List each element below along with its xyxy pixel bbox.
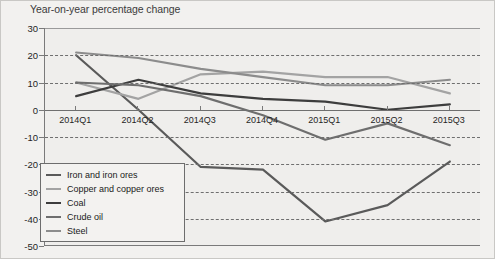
series-line-crude-oil — [76, 83, 450, 146]
chart-legend: Iron and iron oresCopper and copper ores… — [40, 163, 185, 242]
y-axis-tick-label: 10 — [2, 77, 38, 88]
y-axis-tick-label: -50 — [2, 241, 38, 252]
legend-item-label: Steel — [67, 227, 88, 236]
legend-item-label: Copper and copper ores — [67, 185, 164, 194]
gridline-20 — [45, 55, 480, 56]
gridline-30 — [45, 28, 480, 29]
chart-figure: Year-on-year percentage change 3020100-1… — [0, 0, 495, 259]
y-axis-tick-label: -40 — [2, 213, 38, 224]
legend-swatch-icon — [46, 216, 61, 218]
y-axis-tick-mark — [39, 246, 44, 247]
legend-swatch-icon — [46, 202, 61, 204]
legend-item-label: Coal — [67, 199, 86, 208]
legend-item-label: Crude oil — [67, 213, 103, 222]
legend-item: Crude oil — [46, 210, 179, 224]
gridline-neg10 — [45, 137, 480, 138]
legend-item: Steel — [46, 224, 179, 238]
y-axis-tick-label: -10 — [2, 132, 38, 143]
y-axis-tick-label: 20 — [2, 50, 38, 61]
legend-swatch-icon — [46, 174, 61, 176]
chart-title: Year-on-year percentage change — [30, 3, 180, 15]
gridline-0 — [45, 110, 480, 111]
y-axis-tick-label: 0 — [2, 104, 38, 115]
legend-item: Copper and copper ores — [46, 182, 179, 196]
legend-swatch-icon — [46, 230, 61, 232]
y-axis-tick-label: -20 — [2, 159, 38, 170]
legend-item-label: Iron and iron ores — [67, 171, 138, 180]
legend-item: Iron and iron ores — [46, 168, 179, 182]
legend-item: Coal — [46, 196, 179, 210]
y-axis-tick-label: 30 — [2, 23, 38, 34]
legend-swatch-icon — [46, 188, 61, 190]
gridline-10 — [45, 83, 480, 84]
y-axis-tick-label: -30 — [2, 186, 38, 197]
